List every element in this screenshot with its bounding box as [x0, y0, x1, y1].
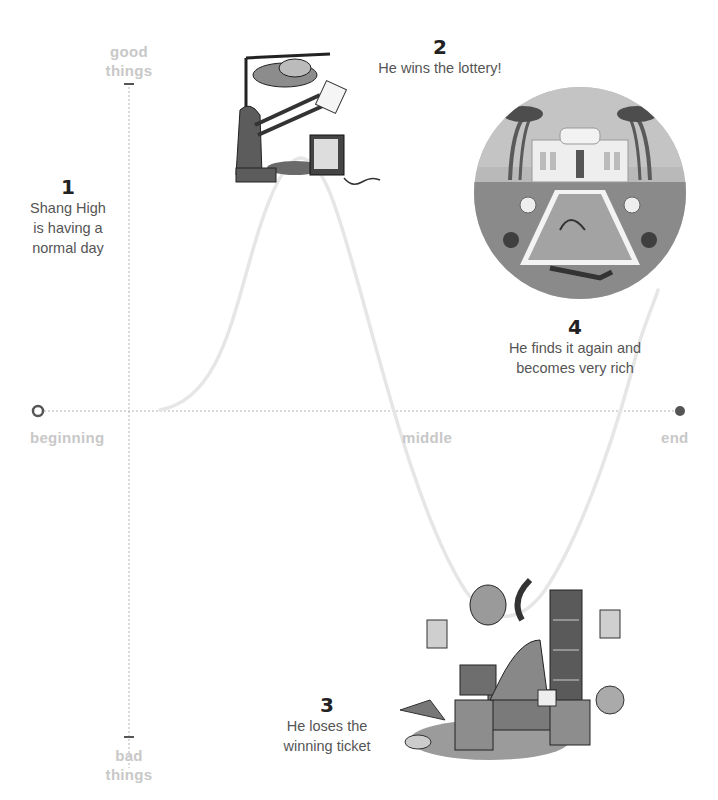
trough-illustration — [400, 580, 624, 760]
y-axis-bottom-label: bad things — [94, 746, 164, 784]
x-axis-middle-label: middle — [402, 428, 452, 447]
step-4: 4 He finds it again and becomes very ric… — [470, 316, 680, 378]
step-1-number: 1 — [18, 176, 118, 198]
step-3: 3 He loses the winning ticket — [262, 694, 392, 756]
mansion-illustration — [470, 87, 690, 312]
step-2: 2 He wins the lottery! — [355, 36, 525, 78]
end-point-icon — [675, 406, 685, 416]
step-4-number: 4 — [470, 316, 680, 338]
step-1: 1 Shang High is having a normal day — [18, 176, 118, 258]
x-axis-end-label: end — [661, 428, 689, 447]
y-axis-top-label: good things — [94, 42, 164, 80]
start-point-icon — [33, 406, 43, 416]
step-3-number: 3 — [262, 694, 392, 716]
step-2-number: 2 — [355, 36, 525, 58]
x-axis-start-label: beginning — [30, 428, 104, 447]
story-arc-diagram — [0, 0, 718, 800]
